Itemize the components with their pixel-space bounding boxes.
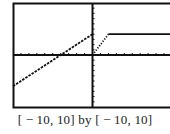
axes (13, 3, 170, 107)
graph-line-piece-1 (13, 34, 93, 86)
graph-window (0, 0, 170, 112)
graph-line-piece-2 (93, 34, 109, 55)
window-caption: [ − 10, 10] by [ − 10, 10] (0, 112, 170, 128)
